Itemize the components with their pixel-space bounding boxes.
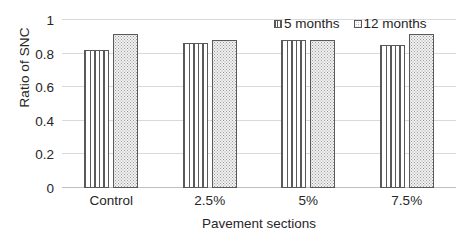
chart-legend: 5 months12 months <box>274 16 427 31</box>
legend-swatch-icon <box>274 20 282 28</box>
bar-series-layer <box>62 20 456 188</box>
x-axis-title: Pavement sections <box>62 216 456 231</box>
bar <box>212 40 237 189</box>
legend-label: 5 months <box>284 16 340 31</box>
bar <box>113 34 138 188</box>
y-axis-tick-label: 1 <box>6 13 54 28</box>
bar-group <box>62 20 161 188</box>
x-axis-tick-labels: Control2.5%5%7.5% <box>62 193 456 213</box>
legend-label: 12 months <box>364 16 427 31</box>
bar <box>281 40 306 189</box>
x-axis-tick-label: 7.5% <box>391 193 422 208</box>
bar <box>409 34 434 188</box>
bar-group <box>259 20 358 188</box>
x-axis-tick-label: 5% <box>298 193 318 208</box>
legend-entry: 5 months <box>274 16 340 31</box>
y-axis-tick-label: 0.6 <box>6 80 54 95</box>
bar <box>84 50 109 188</box>
bar <box>183 43 208 188</box>
legend-entry: 12 months <box>354 16 427 31</box>
y-axis-tick-label: 0.4 <box>6 113 54 128</box>
y-axis-tick-label: 0.2 <box>6 147 54 162</box>
x-axis-tick-label: 2.5% <box>194 193 225 208</box>
chart-figure: Ratio of SNC 00.20.40.60.81 Control2.5%5… <box>0 0 466 246</box>
bar-group <box>358 20 457 188</box>
x-axis-tick-label: Control <box>89 193 133 208</box>
legend-swatch-icon <box>354 20 362 28</box>
y-axis-tick-label: 0.8 <box>6 46 54 61</box>
bar <box>380 45 405 188</box>
bar <box>310 40 335 188</box>
bar-group <box>161 20 260 188</box>
y-axis-tick-label: 0 <box>6 181 54 196</box>
